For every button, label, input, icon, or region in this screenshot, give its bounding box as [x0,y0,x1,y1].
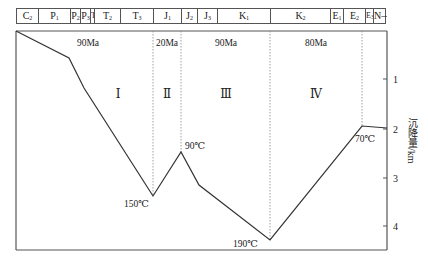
duration-stage-1: 90Ma [77,38,100,48]
stage-1-label: Ⅰ [116,87,121,101]
temp-label-90: 90℃ [185,141,206,151]
stage-2-label: Ⅱ [163,87,171,101]
burial-curve [16,31,387,240]
temp-label-190: 190℃ [233,239,258,249]
stage-4-label: Ⅳ [310,87,323,101]
temp-label-150: 150℃ [124,199,149,209]
stage-dividers [153,31,362,240]
duration-stage-3: 90Ma [215,38,238,48]
tick-4: 4 [393,221,398,232]
y-axis-ticks: 1 2 3 4 [383,74,398,232]
burial-history-plot: 1 2 3 4 90Ma 20Ma 90Ma 80Ma Ⅰ Ⅱ Ⅲ Ⅳ 150℃… [0,0,428,263]
temp-label-70: 70℃ [355,134,376,144]
stage-3-label: Ⅲ [220,87,232,101]
tick-3: 3 [393,173,398,184]
duration-stage-4: 80Ma [305,38,328,48]
duration-stage-2: 20Ma [156,38,179,48]
tick-1: 1 [393,74,398,85]
y-axis-label: 沉降量/km [404,118,418,164]
tick-2: 2 [393,124,398,135]
